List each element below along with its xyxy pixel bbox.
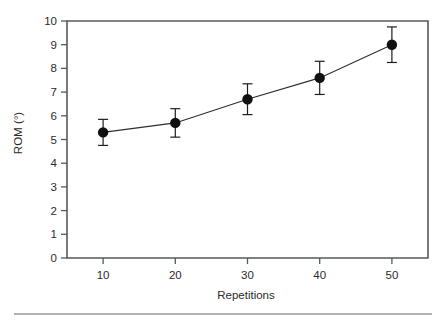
data-point-40: [315, 73, 325, 83]
data-point-50: [387, 40, 397, 50]
y-tick-label-5: 5: [51, 134, 57, 146]
y-tick-label-2: 2: [51, 205, 57, 217]
y-tick-label-7: 7: [51, 86, 57, 98]
y-tick-label-9: 9: [51, 39, 57, 51]
y-tick-label-0: 0: [51, 252, 57, 264]
y-tick-label-4: 4: [51, 157, 58, 169]
data-point-30: [242, 94, 252, 104]
y-tick-label-6: 6: [51, 110, 57, 122]
x-tick-label-30: 30: [241, 269, 254, 281]
chart-figure: 012345678910 1020304050 ROM (°) Repetiti…: [0, 0, 446, 321]
data-point-20: [170, 118, 180, 128]
x-axis-label: Repetitions: [217, 289, 275, 301]
rom-vs-repetitions-line-chart: 012345678910 1020304050 ROM (°) Repetiti…: [0, 0, 446, 321]
x-tick-label-20: 20: [169, 269, 182, 281]
y-tick-label-1: 1: [51, 228, 57, 240]
y-axis-label: ROM (°): [12, 112, 24, 154]
y-tick-label-3: 3: [51, 181, 57, 193]
x-tick-label-40: 40: [313, 269, 326, 281]
y-tick-label-8: 8: [51, 62, 57, 74]
y-tick-label-10: 10: [44, 15, 57, 27]
x-tick-label-10: 10: [97, 269, 110, 281]
x-tick-label-50: 50: [386, 269, 399, 281]
data-point-10: [98, 127, 108, 137]
